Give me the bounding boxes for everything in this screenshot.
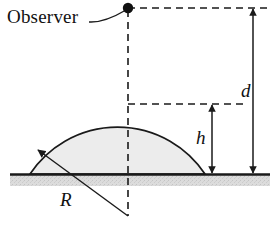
observer-point (123, 3, 133, 13)
radius-label-R: R (60, 190, 72, 209)
dome-shape (30, 127, 205, 174)
distance-label-d: d (241, 81, 251, 100)
ground-strip (10, 175, 270, 186)
height-label-h: h (196, 128, 206, 147)
diagram-canvas (0, 0, 277, 228)
observer-dome-diagram: Observer d h R (0, 0, 277, 228)
observer-leader-line (89, 10, 126, 22)
observer-label: Observer (7, 7, 78, 26)
